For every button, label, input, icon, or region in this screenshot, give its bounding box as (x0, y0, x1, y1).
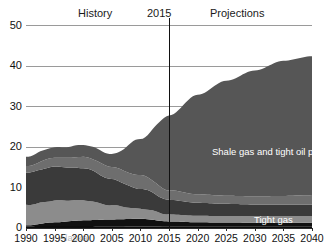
series-label-shale-gas: Shale gas and tight oil plays (212, 147, 330, 157)
x-axis-label-2035: 2035 (272, 232, 295, 244)
x-axis-tick (83, 228, 84, 231)
x-axis-tick (112, 228, 113, 231)
history-annotation: History (78, 7, 112, 19)
x-axis-label-2040: 2040 (300, 232, 323, 244)
x-axis-label-1995: 1995 (43, 232, 66, 244)
divider-line-2015 (169, 25, 170, 228)
projections-annotation: Projections (210, 7, 264, 19)
y-axis-label-10: 10 (2, 182, 22, 193)
y-axis-label-50: 50 (2, 20, 22, 31)
x-axis-label-2015: 2015 (157, 232, 180, 244)
x-axis-tick (283, 228, 284, 231)
x-axis-tick (26, 228, 27, 231)
x-axis-label-2010: 2010 (129, 232, 152, 244)
y-axis-label-30: 30 (2, 101, 22, 112)
x-axis-tick (226, 228, 227, 231)
x-axis-tick (255, 228, 256, 231)
chart-container: History 2015 Projections 50 40 30 20 10 … (0, 0, 334, 247)
x-axis-tick (169, 228, 170, 231)
divider-year-annotation: 2015 (147, 7, 171, 19)
x-axis-tick (140, 228, 141, 231)
y-axis-label-40: 40 (2, 60, 22, 71)
x-axis-tick (198, 228, 199, 231)
divider-line-upper (169, 18, 170, 26)
x-axis-label-2020: 2020 (186, 232, 209, 244)
x-axis-label-2030: 2030 (243, 232, 266, 244)
series-label-tight-gas: Tight gas (254, 215, 293, 225)
y-axis-label-20: 20 (2, 141, 22, 152)
x-axis-label-2025: 2025 (215, 232, 238, 244)
x-axis-tick (55, 228, 56, 231)
x-axis-label-2000: 2000 (72, 232, 95, 244)
plot-area: Shale gas and tight oil plays Tight gas … (26, 25, 312, 228)
x-axis-label-2005: 2005 (100, 232, 123, 244)
x-axis-label-1990: 1990 (14, 232, 37, 244)
x-axis-tick (312, 228, 313, 231)
